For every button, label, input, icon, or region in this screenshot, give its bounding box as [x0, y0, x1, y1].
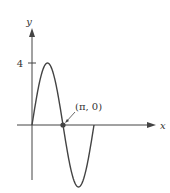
x-axis-label: x	[160, 120, 166, 131]
point-pi-label: (π, 0)	[75, 101, 102, 112]
y-axis-label: y	[25, 16, 32, 27]
point-pi-marker	[60, 122, 65, 127]
x-axis-arrow-icon	[147, 122, 156, 128]
y-axis-arrow-icon	[29, 28, 35, 37]
y-tick-label: 4	[17, 58, 23, 69]
sine-graph: xy4 (π, 0)	[0, 0, 170, 193]
